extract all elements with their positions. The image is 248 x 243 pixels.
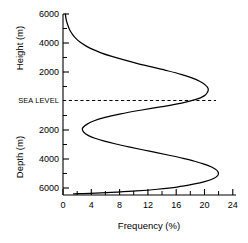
x-axis-title: Frequency (%) [118,220,180,231]
x-tick-label-0: 0 [60,200,65,210]
x-tick-label-24: 24 [228,200,238,210]
x-tick-label-12: 12 [143,200,153,210]
chart-canvas: 6000 4000 2000 2000 4000 6000 SEA LEVEL … [0,0,248,243]
sea-level-label: SEA LEVEL [18,96,59,105]
y-tick-label-4000-height: 4000 [39,38,59,48]
x-tick-label-4: 4 [89,200,94,210]
x-tick-label-16: 16 [171,200,181,210]
y-tick-label-2000-depth: 2000 [39,125,59,135]
chart-background [0,0,248,243]
x-tick-label-20: 20 [199,200,209,210]
y-tick-label-6000-depth: 6000 [39,183,59,193]
y-tick-label-2000-height: 2000 [39,67,59,77]
y-tick-label-6000-height: 6000 [39,9,59,19]
hypsometric-curve-figure: 6000 4000 2000 2000 4000 6000 SEA LEVEL … [0,0,248,243]
x-tick-label-8: 8 [117,200,122,210]
y-axis-title-height: Height (m) [14,26,25,70]
y-tick-label-4000-depth: 4000 [39,154,59,164]
y-axis-title-depth: Depth (m) [14,136,25,178]
